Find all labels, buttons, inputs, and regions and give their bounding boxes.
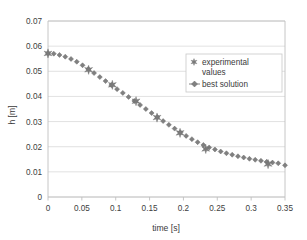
y-tick-label: 0.03: [26, 118, 42, 127]
x-tick-label: 0.3: [245, 204, 257, 213]
y-tick-label: 0: [37, 193, 42, 202]
y-tick-label: 0.06: [26, 42, 42, 51]
x-tick-label: 0.35: [277, 204, 293, 213]
scatter-chart: 00.010.020.030.040.050.060.07 00.050.10.…: [0, 0, 307, 240]
x-tick-label: 0.05: [74, 204, 90, 213]
legend-label-experimental-line2: values: [202, 68, 226, 77]
legend-label-best-solution: best solution: [202, 80, 248, 89]
legend-label-experimental-line1: experimental: [202, 58, 249, 67]
x-tick-label: 0.15: [142, 204, 158, 213]
x-tick-label: 0.2: [178, 204, 190, 213]
x-tick-label: 0.25: [209, 204, 225, 213]
y-tick-label: 0.02: [26, 143, 42, 152]
x-tick-label: 0: [46, 204, 51, 213]
x-tick-label: 0.1: [110, 204, 122, 213]
y-axis-title: h [m]: [7, 105, 17, 124]
x-axis-title: time [s]: [152, 223, 180, 233]
y-tick-label: 0.07: [26, 17, 42, 26]
y-tick-label: 0.05: [26, 67, 42, 76]
y-tick-label: 0.04: [26, 92, 42, 101]
chart-container: 00.010.020.030.040.050.060.07 00.050.10.…: [0, 0, 307, 240]
y-tick-label: 0.01: [26, 168, 42, 177]
chart-legend: experimental values best solution: [186, 54, 282, 92]
